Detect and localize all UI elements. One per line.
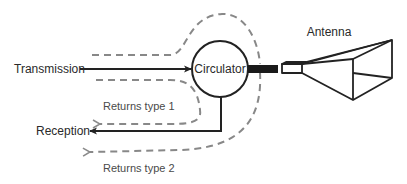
waveguide xyxy=(248,65,278,73)
returns-type-1-label: Returns type 1 xyxy=(103,100,175,112)
reception-label: Reception xyxy=(36,124,90,138)
returns-type-2-label: Returns type 2 xyxy=(103,162,175,174)
transmission-label: Transmission xyxy=(14,62,85,76)
antenna-horn-icon xyxy=(282,40,392,100)
circulator-label: Circulator xyxy=(194,62,245,76)
circulator-diagram: Transmission Circulator Antenna Returns … xyxy=(0,0,407,184)
antenna-label: Antenna xyxy=(307,25,352,39)
